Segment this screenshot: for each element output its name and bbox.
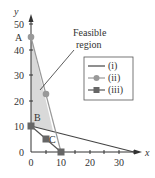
y-axis-label: y (13, 6, 19, 17)
legend-marker-ii (94, 75, 100, 81)
marker-ii (28, 34, 35, 41)
legend-marker-iii (94, 87, 100, 93)
y-tick-label: 0 (19, 147, 24, 158)
legend: (i) (ii) (iii) (84, 57, 133, 100)
y-tick-label: 50 (14, 19, 24, 30)
marker-iii (58, 149, 65, 156)
annotation-pointer (40, 50, 74, 90)
point-label-a: A (15, 32, 23, 43)
marker-ii (43, 91, 50, 98)
x-axis-arrow (134, 150, 142, 155)
x-tick-label: 20 (85, 157, 95, 168)
x-axis-label: x (144, 147, 150, 158)
chart: 50 40 30 20 10 0 0 10 20 30 y x A B C Fe… (0, 0, 155, 178)
x-tick-label: 0 (29, 157, 34, 168)
x-tick-label: 30 (114, 157, 124, 168)
point-label-c: C (49, 134, 56, 145)
y-tick-label: 40 (14, 45, 24, 56)
y-tick-label: 10 (14, 121, 24, 132)
marker-iii (28, 123, 35, 130)
legend-label-i: (i) (108, 60, 117, 72)
y-tick-label: 30 (14, 70, 24, 81)
legend-label-iii: (iii) (108, 84, 123, 96)
point-label-b: B (34, 112, 41, 123)
y-axis-arrow (29, 14, 34, 22)
annotation-feasible: Feasible (73, 27, 107, 38)
annotation-region: region (76, 39, 102, 50)
y-tick-label: 20 (14, 96, 24, 107)
legend-label-ii: (ii) (108, 72, 120, 84)
x-tick-label: 10 (56, 157, 66, 168)
